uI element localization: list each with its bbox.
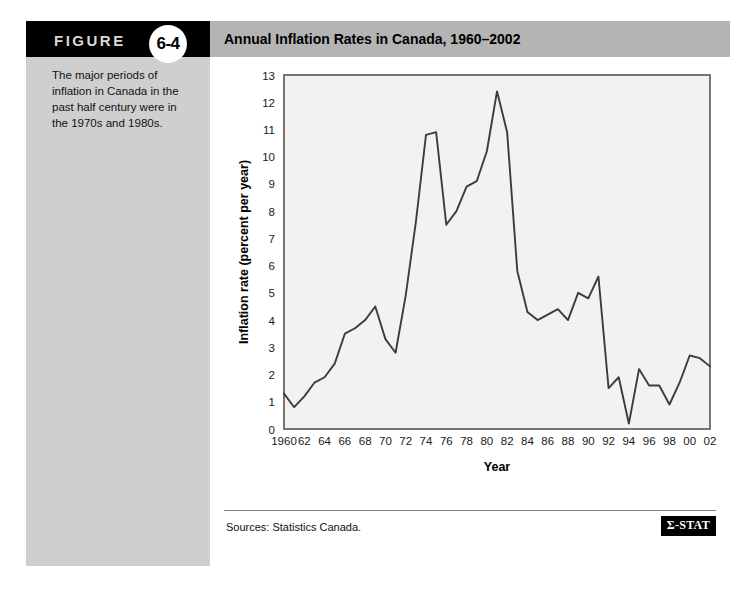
svg-text:11: 11 — [263, 124, 275, 136]
svg-text:86: 86 — [541, 435, 554, 447]
svg-text:0: 0 — [269, 424, 275, 436]
chart-plot-area: 012345678910111213 196062646668707274767… — [210, 57, 730, 497]
figure-label: FIGURE — [54, 32, 126, 49]
svg-text:02: 02 — [704, 435, 717, 447]
figure-caption: The major periods of inflation in Canada… — [52, 68, 192, 131]
svg-text:66: 66 — [338, 435, 351, 447]
figure-footer: Sources: Statistics Canada. Σ-STAT — [224, 510, 716, 554]
figure-main-panel: Annual Inflation Rates in Canada, 1960–2… — [210, 21, 730, 566]
svg-text:6: 6 — [269, 260, 275, 272]
svg-text:88: 88 — [562, 435, 575, 447]
figure-badge: FIGURE 6-4 — [26, 21, 210, 57]
svg-text:1960: 1960 — [271, 435, 297, 447]
svg-text:98: 98 — [663, 435, 676, 447]
svg-text:1: 1 — [269, 396, 275, 408]
chart-title: Annual Inflation Rates in Canada, 1960–2… — [224, 31, 520, 47]
svg-text:72: 72 — [399, 435, 412, 447]
source-note: Sources: Statistics Canada. — [226, 521, 361, 533]
svg-text:9: 9 — [269, 178, 275, 190]
svg-text:82: 82 — [501, 435, 514, 447]
stat-logo: Σ-STAT — [661, 516, 716, 536]
chart-title-bar: Annual Inflation Rates in Canada, 1960–2… — [210, 21, 730, 57]
svg-text:70: 70 — [379, 435, 392, 447]
svg-text:74: 74 — [420, 435, 433, 447]
svg-text:13: 13 — [262, 70, 275, 82]
inflation-line-chart: 012345678910111213 196062646668707274767… — [210, 57, 730, 497]
svg-text:12: 12 — [262, 97, 275, 109]
svg-text:5: 5 — [269, 287, 275, 299]
chart-x-axis-ticks: 1960626466687072747678808284868890929496… — [271, 435, 716, 447]
svg-text:Inflation rate (percent per ye: Inflation rate (percent per year) — [237, 160, 251, 344]
svg-text:84: 84 — [521, 435, 534, 447]
svg-text:4: 4 — [269, 315, 276, 327]
svg-text:90: 90 — [582, 435, 595, 447]
svg-text:96: 96 — [643, 435, 656, 447]
footer-divider — [224, 510, 716, 511]
svg-text:7: 7 — [269, 233, 275, 245]
svg-text:78: 78 — [460, 435, 473, 447]
svg-text:62: 62 — [298, 435, 311, 447]
figure-side-panel: FIGURE 6-4 The major periods of inflatio… — [26, 21, 210, 566]
svg-text:94: 94 — [622, 435, 635, 447]
figure-container: FIGURE 6-4 The major periods of inflatio… — [26, 21, 730, 566]
svg-text:64: 64 — [318, 435, 331, 447]
svg-text:10: 10 — [262, 151, 275, 163]
svg-text:00: 00 — [683, 435, 696, 447]
figure-number: 6-4 — [149, 25, 187, 63]
svg-text:Year: Year — [484, 460, 511, 474]
svg-text:3: 3 — [269, 342, 275, 354]
chart-y-axis-ticks: 012345678910111213 — [262, 70, 275, 436]
svg-text:2: 2 — [269, 369, 275, 381]
svg-text:92: 92 — [602, 435, 615, 447]
svg-text:8: 8 — [269, 206, 275, 218]
svg-text:68: 68 — [359, 435, 372, 447]
svg-text:76: 76 — [440, 435, 453, 447]
chart-plot-border — [284, 75, 710, 429]
svg-text:80: 80 — [480, 435, 493, 447]
